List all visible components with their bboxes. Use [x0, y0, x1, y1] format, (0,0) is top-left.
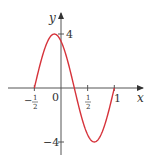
x-tick-label-1: 1 [114, 92, 121, 105]
svg-text:1: 1 [33, 94, 37, 102]
x-axis-label: x [137, 91, 144, 105]
svg-text:1: 1 [86, 94, 90, 102]
x-tick-label-half: 1 2 [85, 94, 91, 111]
svg-text:2: 2 [33, 103, 37, 111]
y-axis-label: y [48, 11, 56, 25]
x-tick-label-neg-half: − 1 2 [24, 94, 38, 111]
function-graph: y x 0 4 −4 − 1 2 1 2 1 [0, 0, 152, 162]
y-tick-label-4: 4 [66, 28, 73, 41]
svg-text:−: − [24, 95, 32, 106]
origin-label: 0 [52, 91, 59, 104]
svg-text:2: 2 [86, 103, 90, 111]
y-tick-label-neg4: −4 [43, 136, 59, 149]
